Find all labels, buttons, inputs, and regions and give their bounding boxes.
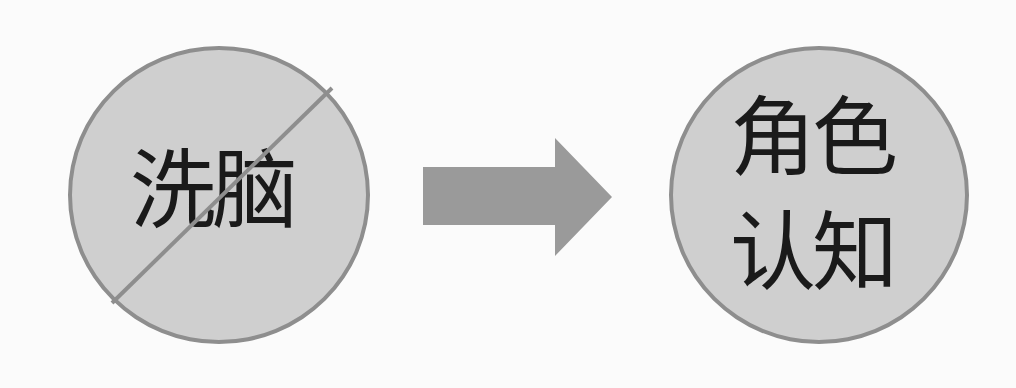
role-cognition-label-line1: 角色	[730, 95, 894, 181]
diagram-canvas: 洗脑 角色 认知	[0, 0, 1016, 388]
strike-through-line-icon	[112, 88, 332, 303]
role-cognition-label-line2: 认知	[730, 210, 894, 296]
right-arrow-icon	[423, 138, 612, 256]
